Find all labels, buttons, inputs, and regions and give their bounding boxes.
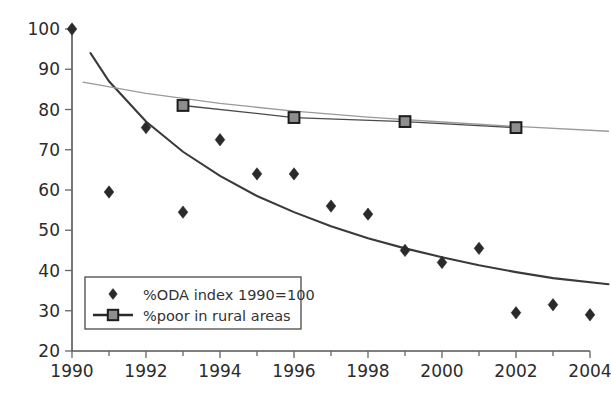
data-point-diamond xyxy=(104,186,114,198)
x-axis-tick-labels: 19901992199419961998200020022004 xyxy=(50,361,611,381)
y-axis-tick-labels: 2030405060708090100 xyxy=(28,19,60,361)
trend-line xyxy=(91,53,609,284)
legend-item-label: %ODA index 1990=100 xyxy=(143,287,315,303)
data-point-diamond xyxy=(363,208,373,220)
x-axis-tick-label: 1996 xyxy=(272,361,315,381)
y-axis-tick-label: 60 xyxy=(38,180,60,200)
y-axis-tick-label: 30 xyxy=(38,301,60,321)
trend-line xyxy=(83,82,608,131)
data-point-diamond xyxy=(326,200,336,212)
y-axis-tick-label: 40 xyxy=(38,261,60,281)
x-axis-tick-label: 1994 xyxy=(198,361,241,381)
data-point-diamond xyxy=(511,307,521,319)
legend-item-label: %poor in rural areas xyxy=(143,308,291,324)
data-point-diamond xyxy=(474,242,484,254)
x-axis-tick-label: 2000 xyxy=(420,361,463,381)
x-axis-tick-label: 1992 xyxy=(124,361,167,381)
series-connecting-line xyxy=(183,105,516,127)
y-axis-tick-label: 20 xyxy=(38,341,60,361)
x-axis-tick-label: 2002 xyxy=(494,361,537,381)
y-axis-tick-label: 90 xyxy=(38,59,60,79)
series-lines xyxy=(183,105,516,127)
data-point-diamond xyxy=(400,244,410,256)
data-point-square xyxy=(400,116,411,127)
y-axis-tick-label: 70 xyxy=(38,140,60,160)
x-axis-tick-label: 2004 xyxy=(568,361,611,381)
data-point-diamond xyxy=(252,168,262,180)
x-axis-tick-label: 1998 xyxy=(346,361,389,381)
data-point-square xyxy=(289,112,300,123)
data-point-diamond xyxy=(289,168,299,180)
x-axis-tick-label: 1990 xyxy=(50,361,93,381)
legend-marker-square xyxy=(108,310,118,320)
y-axis-tick-label: 100 xyxy=(28,19,60,39)
chart-legend: %ODA index 1990=100%poor in rural areas xyxy=(85,277,315,329)
chart-plot-area: 2030405060708090100 19901992199419961998… xyxy=(0,0,611,397)
data-point-square xyxy=(511,122,522,133)
data-point-diamond xyxy=(215,133,225,145)
y-axis-tick-label: 80 xyxy=(38,100,60,120)
data-point-diamond xyxy=(67,23,77,35)
data-point-diamond xyxy=(548,299,558,311)
data-point-diamond xyxy=(585,309,595,321)
trend-lines xyxy=(83,53,608,284)
data-point-diamond xyxy=(178,206,188,218)
y-axis-tick-label: 50 xyxy=(38,220,60,240)
series-markers xyxy=(67,23,595,321)
chart-container: 2030405060708090100 19901992199419961998… xyxy=(0,0,611,397)
data-point-square xyxy=(178,100,189,111)
